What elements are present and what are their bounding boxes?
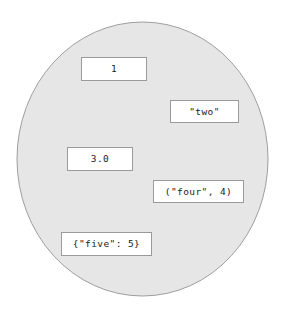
value-box-float: 3.0 — [67, 147, 133, 171]
value-box-int-label: 1 — [111, 64, 117, 74]
value-box-tuple: ("four", 4) — [153, 180, 244, 203]
value-box-tuple-label: ("four", 4) — [165, 187, 232, 197]
value-box-float-label: 3.0 — [91, 154, 109, 164]
value-box-int: 1 — [81, 57, 147, 81]
container-ellipse — [0, 0, 286, 313]
value-box-string-label: "two" — [189, 107, 220, 117]
value-box-dict: {"five": 5} — [61, 232, 152, 256]
value-box-string: "two" — [170, 100, 239, 123]
diagram-canvas: 1 "two" 3.0 ("four", 4) {"five": 5} — [0, 0, 286, 313]
value-box-dict-label: {"five": 5} — [73, 239, 140, 249]
